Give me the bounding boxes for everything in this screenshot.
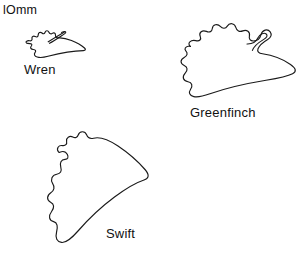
wren-label: Wren — [24, 62, 56, 77]
specimen-greenfinch: Greenfinch — [178, 22, 298, 120]
wren-outline — [26, 31, 85, 58]
scale-annotation-label: lOmm — [3, 3, 37, 17]
sternum-outline-drawing: lOmm Wren Greenfinch — [0, 0, 304, 254]
figure-canvas: lOmm Wren Greenfinch — [0, 0, 304, 254]
specimen-wren: Wren — [20, 28, 95, 77]
swift-label: Swift — [106, 226, 135, 241]
greenfinch-outline — [181, 24, 295, 97]
specimen-swift: Swift — [44, 128, 154, 246]
greenfinch-label: Greenfinch — [190, 105, 256, 120]
